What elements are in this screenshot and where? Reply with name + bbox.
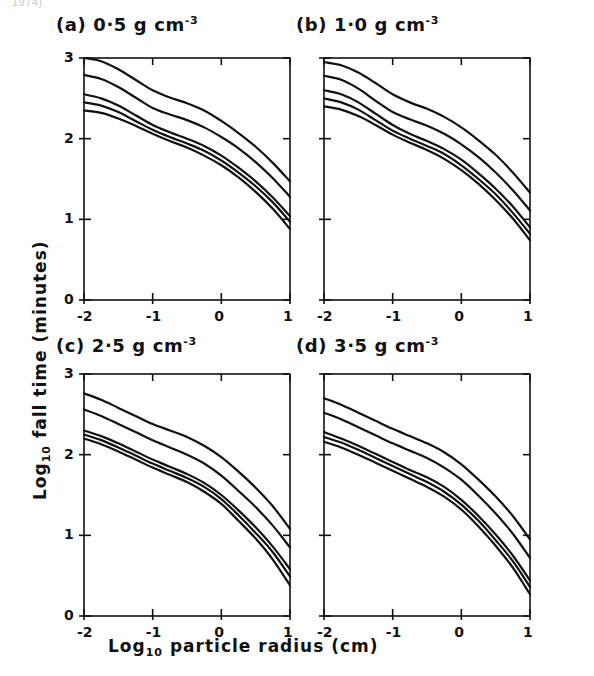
x-tick-label-d-2: 0	[454, 624, 464, 640]
curve-d-4	[324, 437, 530, 587]
y-tick-label-c-0: 0	[64, 607, 74, 623]
y-tick-label-c-1: 1	[64, 526, 74, 542]
curve-b-2	[324, 76, 530, 211]
curve-a-2	[84, 75, 290, 197]
x-tick-label-d-3: 1	[523, 624, 533, 640]
plot-svg	[0, 0, 594, 676]
panel-c	[79, 374, 290, 620]
x-tick-label-d-1: -1	[386, 624, 402, 640]
y-tick-label-c-3: 3	[64, 365, 74, 381]
y-tick-label-c-2: 2	[64, 446, 74, 462]
x-tick-label-c-1: -1	[146, 624, 162, 640]
panel-frame-b	[324, 58, 530, 300]
x-tick-label-b-2: 0	[454, 308, 464, 324]
curve-a-3	[84, 94, 290, 216]
x-tick-label-b-1: -1	[386, 308, 402, 324]
curve-b-1	[324, 62, 530, 193]
x-tick-label-c-2: 0	[214, 624, 224, 640]
curve-c-3	[84, 430, 290, 569]
x-tick-label-a-0: -2	[77, 308, 93, 324]
x-tick-label-a-3: 1	[283, 308, 293, 324]
curve-a-5	[84, 110, 290, 229]
curve-b-4	[324, 98, 530, 234]
x-tick-label-a-1: -1	[146, 308, 162, 324]
y-tick-label-a-3: 3	[64, 49, 74, 65]
y-tick-label-a-0: 0	[64, 291, 74, 307]
panel-frame-c	[84, 374, 290, 616]
x-tick-label-a-2: 0	[214, 308, 224, 324]
figure-container: 1974) (a) 0·5 g cm-3 (b) 1·0 g cm-3 (c) …	[0, 0, 594, 676]
x-tick-label-d-0: -2	[317, 624, 333, 640]
x-tick-label-c-3: 1	[283, 624, 293, 640]
panel-frame-a	[84, 58, 290, 300]
x-tick-label-b-0: -2	[317, 308, 333, 324]
x-tick-label-b-3: 1	[523, 308, 533, 324]
y-tick-label-a-2: 2	[64, 130, 74, 146]
panel-d	[319, 374, 530, 620]
curve-c-1	[84, 393, 290, 529]
panel-b	[319, 58, 530, 304]
x-tick-label-c-0: -2	[77, 624, 93, 640]
panel-a	[79, 58, 290, 304]
y-tick-label-a-1: 1	[64, 210, 74, 226]
curve-d-2	[324, 413, 530, 558]
